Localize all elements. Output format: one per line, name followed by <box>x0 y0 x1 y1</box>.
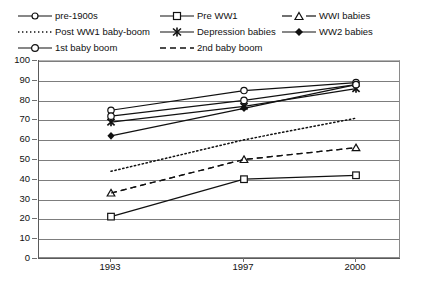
legend-label: WWI babies <box>316 11 370 21</box>
legend-swatch-dashed-triangle-open-icon <box>282 10 316 22</box>
legend-item-pre-ww1[interactable]: Pre WW1 <box>160 9 238 23</box>
legend-swatch-dotted-icon <box>18 26 52 38</box>
y-tick-label: 80 <box>19 95 30 105</box>
legend-swatch-line-diamond-filled-icon <box>282 26 316 38</box>
y-tick-label: 60 <box>19 134 30 144</box>
x-axis-line <box>38 258 400 259</box>
legend-item-depression-babies[interactable]: Depression babies <box>160 25 276 39</box>
y-tick-mark <box>32 218 37 219</box>
y-tick-mark <box>32 179 37 180</box>
legend-item-wwi-babies[interactable]: WWI babies <box>282 9 370 23</box>
y-tick-label: 50 <box>19 154 30 164</box>
y-tick-mark <box>32 139 37 140</box>
y-tick-mark <box>32 258 37 259</box>
series-layer <box>39 61 401 259</box>
x-tick-label: 1993 <box>99 262 120 272</box>
legend-label: Depression babies <box>194 27 276 37</box>
legend-label: 1st baby boom <box>52 43 117 53</box>
series-2nd-baby-boom <box>111 148 356 193</box>
series-1st-baby-boom <box>108 81 359 119</box>
legend-swatch-line-circle-open-icon <box>18 10 52 22</box>
y-tick-mark <box>32 100 37 101</box>
y-tick-label: 30 <box>19 194 30 204</box>
legend-label: Pre WW1 <box>194 11 238 21</box>
legend-swatch-line-circle-open-2-icon <box>18 42 52 54</box>
y-tick-label: 90 <box>19 75 30 85</box>
y-tick-label: 20 <box>19 214 30 224</box>
y-tick-mark <box>32 80 37 81</box>
y-axis-line <box>38 60 39 259</box>
series-pre-1900s <box>108 79 359 113</box>
legend-item-1st-baby-boom[interactable]: 1st baby boom <box>18 41 117 55</box>
y-tick-mark <box>32 119 37 120</box>
legend-item-post-ww1-baby-boom[interactable]: Post WW1 baby-boom <box>18 25 150 39</box>
y-tick-label: 70 <box>19 115 30 125</box>
line-chart: pre-1900s Pre WW1 WWI babies Post WW1 ba… <box>0 0 428 293</box>
y-tick-label: 40 <box>19 174 30 184</box>
x-tick-label: 2000 <box>344 262 365 272</box>
legend-swatch-line-square-open-icon <box>160 10 194 22</box>
y-tick-mark <box>32 199 37 200</box>
legend-item-ww2-babies[interactable]: WW2 babies <box>282 25 373 39</box>
chart-title-cropped <box>0 0 428 8</box>
x-tick-label: 1997 <box>232 262 253 272</box>
series-pre-ww1 <box>108 172 360 220</box>
legend-swatch-line-star-filled-icon <box>160 26 194 38</box>
y-tick-label: 100 <box>14 55 30 65</box>
legend-label: pre-1900s <box>52 11 98 21</box>
y-axis-labels: 100 90 80 70 60 50 40 30 20 10 0 <box>0 60 34 258</box>
legend-label: Post WW1 baby-boom <box>52 27 150 37</box>
y-tick-mark <box>32 159 37 160</box>
plot-area <box>38 60 400 258</box>
y-tick-label: 10 <box>19 233 30 243</box>
legend-item-2nd-baby-boom[interactable]: 2nd baby boom <box>160 41 263 55</box>
series-post-ww1-baby-boom <box>111 118 356 171</box>
chart-legend: pre-1900s Pre WW1 WWI babies Post WW1 ba… <box>0 9 428 55</box>
legend-label: WW2 babies <box>316 27 373 37</box>
legend-item-pre-1900s[interactable]: pre-1900s <box>18 9 98 23</box>
x-axis-labels: 1993 1997 2000 <box>0 262 428 278</box>
y-tick-mark <box>32 238 37 239</box>
legend-swatch-dashed-icon <box>160 42 194 54</box>
legend-label: 2nd baby boom <box>194 43 263 53</box>
y-tick-mark <box>32 60 37 61</box>
